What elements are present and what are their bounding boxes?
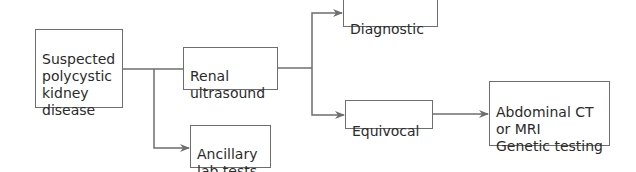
node-label: Abdominal CT or MRI Genetic testing xyxy=(496,104,603,154)
node-ancillary-lab-tests: Ancillary lab tests xyxy=(190,125,271,168)
node-label: Suspected polycystic kidney disease xyxy=(42,51,115,118)
node-label: Diagnostic xyxy=(350,21,424,37)
edge-renal-diagnostic xyxy=(312,13,342,68)
node-abdominal-ct-genetic: Abdominal CT or MRI Genetic testing xyxy=(489,81,610,146)
node-equivocal: Equivocal xyxy=(345,100,433,129)
node-label: Ancillary lab tests xyxy=(197,146,257,172)
node-renal-ultrasound: Renal ultrasound xyxy=(183,47,278,90)
node-diagnostic: Diagnostic xyxy=(343,0,438,27)
node-suspected-pkd: Suspected polycystic kidney disease xyxy=(35,29,123,108)
node-label: Equivocal xyxy=(352,123,420,139)
node-label: Renal ultrasound xyxy=(190,68,265,101)
edge-renal-equivocal xyxy=(312,68,344,115)
